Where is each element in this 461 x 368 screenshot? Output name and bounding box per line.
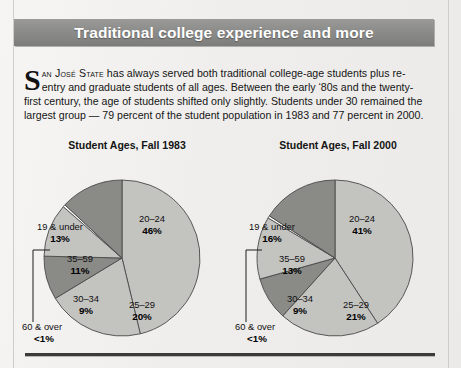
slice-category-label: 35–59 <box>67 253 93 264</box>
slice-category-label: 19 & under <box>249 221 295 232</box>
chart-title-1983: Student Ages, Fall 1983 <box>22 139 232 151</box>
slice-value-label: 9% <box>79 305 93 316</box>
slice-value-label: 13% <box>282 265 302 276</box>
page-border-left <box>13 0 14 368</box>
pie-chart-1983: 20–2446%25–2920%30–349%35–5911%19 & unde… <box>16 155 231 355</box>
page-title: Traditional college experience and more <box>14 24 434 42</box>
callout-value-label: <1% <box>247 333 267 344</box>
slice-value-label: 11% <box>70 265 89 276</box>
slice-category-label: 30–34 <box>287 293 313 304</box>
page-border-right <box>448 0 449 368</box>
slice-category-label: 20–24 <box>349 213 375 224</box>
intro-lead-smallcaps: an José State <box>42 67 104 79</box>
slice-category-label: 25–29 <box>343 299 369 310</box>
bottom-rule <box>25 353 435 356</box>
slice-value-label: 13% <box>50 233 70 244</box>
callout-value-label: <1% <box>34 333 54 344</box>
intro-paragraph: San José State has always served both tr… <box>24 66 428 122</box>
pie-chart-2000: 20–2441%25–2921%30–349%35–5913%19 & unde… <box>229 155 444 355</box>
slice-value-label: 46% <box>142 225 162 236</box>
callout-category-label: 60 & over <box>22 321 62 332</box>
slice-value-label: 41% <box>352 225 372 236</box>
slice-category-label: 20–24 <box>139 213 165 224</box>
callout-category-label: 60 & over <box>235 321 275 332</box>
slice-value-label: 16% <box>262 233 282 244</box>
title-banner: Traditional college experience and more <box>14 19 434 46</box>
slice-category-label: 19 & under <box>37 221 83 232</box>
slice-category-label: 35–59 <box>279 253 305 264</box>
slice-value-label: 9% <box>293 305 307 316</box>
chart-title-2000: Student Ages, Fall 2000 <box>233 139 443 151</box>
drop-cap: S <box>24 67 41 92</box>
slice-value-label: 20% <box>132 311 152 322</box>
slice-category-label: 25–29 <box>129 299 155 310</box>
slice-value-label: 21% <box>346 311 366 322</box>
slice-category-label: 30–34 <box>73 293 99 304</box>
